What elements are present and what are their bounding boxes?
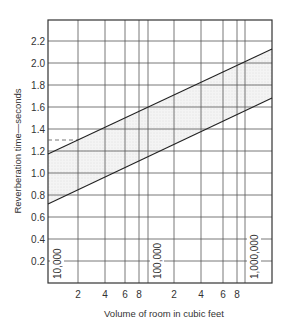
decade-label-1000000: 1,000,000 <box>249 234 260 279</box>
x-tick-labels: 2 4 6 8 2 4 6 8 <box>75 289 240 300</box>
reverberation-chart: 2.2 2.0 1.8 1.6 1.4 1.2 1.0 0.8 0.6 0.4 … <box>0 0 288 329</box>
decade-labels: 10,000 100,000 1,000,000 <box>52 234 260 279</box>
y-tick: 1.0 <box>31 168 45 179</box>
x-tick: 4 <box>102 289 108 300</box>
x-tick: 2 <box>171 289 177 300</box>
x-tick: 8 <box>136 289 142 300</box>
y-tick: 1.4 <box>31 124 45 135</box>
decade-label-10000: 10,000 <box>52 248 63 279</box>
shaded-band <box>48 49 272 204</box>
x-tick: 6 <box>122 289 128 300</box>
x-tick: 8 <box>234 289 240 300</box>
y-tick: 1.6 <box>31 102 45 113</box>
y-axis-title: Reverberation time—seconds <box>12 88 23 213</box>
y-tick: 0.6 <box>31 212 45 223</box>
x-tick: 6 <box>220 289 226 300</box>
y-tick: 1.2 <box>31 146 45 157</box>
y-tick: 0.4 <box>31 234 45 245</box>
decade-label-100000: 100,000 <box>152 242 163 279</box>
x-axis-title: Volume of room in cubic feet <box>104 308 224 319</box>
y-tick: 0.2 <box>31 256 45 267</box>
y-tick: 0.8 <box>31 190 45 201</box>
x-tick: 2 <box>75 289 81 300</box>
y-tick-labels: 2.2 2.0 1.8 1.6 1.4 1.2 1.0 0.8 0.6 0.4 … <box>31 36 45 267</box>
y-tick: 2.0 <box>31 58 45 69</box>
y-tick: 2.2 <box>31 36 45 47</box>
y-tick: 1.8 <box>31 80 45 91</box>
x-tick: 4 <box>198 289 204 300</box>
